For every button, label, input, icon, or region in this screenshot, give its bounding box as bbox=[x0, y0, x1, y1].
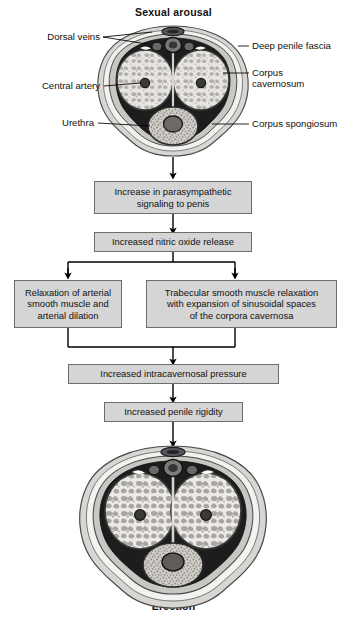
flow-box-arterial-relaxation-line1: Relaxation of arterial bbox=[25, 287, 111, 298]
flow-box-intracavernosal-pressure: Increased intracavernosal pressure bbox=[68, 364, 279, 384]
flow-box-nitric-oxide: Increased nitric oxide release bbox=[94, 232, 252, 252]
flow-box-intracavernosal-pressure-line1: Increased intracavernosal pressure bbox=[100, 368, 246, 379]
label-dorsal-veins: Dorsal veins bbox=[8, 31, 100, 43]
flow-box-arterial-relaxation-line2: smooth muscle and bbox=[27, 298, 108, 309]
figure-root: Sexual arousal Erection bbox=[0, 0, 347, 620]
label-central-artery: Central artery bbox=[4, 80, 100, 92]
flow-box-parasympathetic-line2: signaling to penis bbox=[137, 198, 209, 209]
connector-split-bus bbox=[68, 252, 235, 275]
anatomy-cross-section-erection bbox=[80, 446, 267, 608]
label-corpus-cavernosum-line2: cavernosum bbox=[252, 78, 304, 90]
flow-box-arterial-relaxation: Relaxation of arterial smooth muscle and… bbox=[14, 280, 122, 328]
flow-box-penile-rigidity: Increased penile rigidity bbox=[104, 402, 243, 422]
label-urethra: Urethra bbox=[18, 117, 94, 129]
anatomy-cross-section-arousal bbox=[98, 26, 249, 156]
flow-box-trabecular-relaxation: Trabecular smooth muscle relaxation with… bbox=[146, 280, 337, 328]
flow-box-nitric-oxide-line1: Increased nitric oxide release bbox=[112, 236, 234, 247]
label-deep-penile-fascia: Deep penile fascia bbox=[252, 40, 331, 52]
label-corpus-cavernosum-line1: Corpus bbox=[252, 67, 283, 79]
flow-box-trabecular-relaxation-line3: of the corpora cavernosa bbox=[190, 310, 294, 321]
flow-box-trabecular-relaxation-line2: with expansion of sinusoidal spaces bbox=[167, 298, 316, 309]
flow-box-trabecular-relaxation-line1: Trabecular smooth muscle relaxation bbox=[165, 287, 318, 298]
flow-box-parasympathetic: Increase in parasympathetic signaling to… bbox=[94, 181, 252, 214]
label-corpus-spongiosum: Corpus spongiosum bbox=[252, 118, 337, 130]
connector-merge-bus bbox=[68, 328, 235, 347]
flow-box-penile-rigidity-line1: Increased penile rigidity bbox=[124, 406, 223, 417]
flow-box-parasympathetic-line1: Increase in parasympathetic bbox=[114, 186, 231, 197]
flow-box-arterial-relaxation-line3: arterial dilation bbox=[38, 310, 99, 321]
